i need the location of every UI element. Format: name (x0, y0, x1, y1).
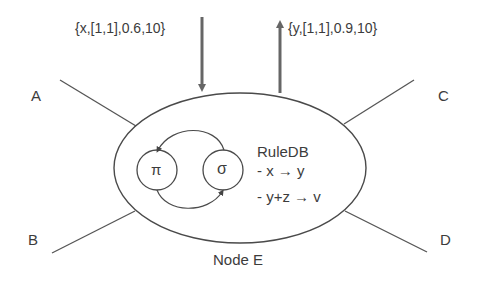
neighbor-c-label: C (438, 88, 449, 103)
rule-1: - x → y (257, 161, 305, 180)
cycle-arrow-bottom (157, 190, 222, 208)
edge-d (345, 211, 427, 252)
outgoing-message-label: {y,[1,1],0.9,10} (288, 21, 377, 35)
ruledb-title: RuleDB (257, 142, 309, 161)
node-e-label: Node E (213, 252, 263, 267)
diagram-canvas (0, 0, 479, 281)
sigma-symbol: σ (217, 161, 227, 177)
edge-a (60, 80, 136, 126)
rule-2: - y+z → v (257, 187, 321, 206)
pi-symbol: π (151, 162, 161, 177)
cycle-arrow-top (158, 131, 224, 151)
edge-c (344, 80, 414, 124)
incoming-message-label: {x,[1,1],0.6,10} (75, 21, 165, 35)
edge-b (52, 211, 135, 253)
neighbor-d-label: D (440, 232, 451, 247)
neighbor-a-label: A (31, 88, 41, 103)
neighbor-b-label: B (28, 232, 38, 247)
